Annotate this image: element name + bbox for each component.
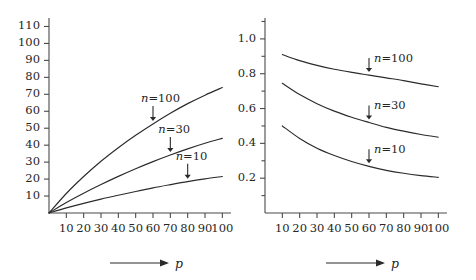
annotation-arrow-head-n=30 xyxy=(167,148,173,152)
curve-label-variable: n xyxy=(374,142,381,156)
left-y-tick-label: 110 xyxy=(18,18,40,32)
right-y-tick-label: 1.0 xyxy=(238,31,256,45)
curve-label-variable: n xyxy=(374,98,381,112)
curve-label-value: =10 xyxy=(381,142,405,156)
left-plot-svg: 102030405060708090100110 102030405060708… xyxy=(0,0,238,280)
right-x-tick-label: 70 xyxy=(379,221,394,235)
curve-label-variable: n xyxy=(374,51,381,65)
left-x-tick-label: 10 xyxy=(59,221,74,235)
curve-label-variable: n xyxy=(141,91,148,105)
right-x-tick-label: 20 xyxy=(292,221,307,235)
left-x-tick-label: 90 xyxy=(198,221,213,235)
chart-panel-right: 0.20.40.60.81.0 102030405060708090100 n=… xyxy=(238,0,476,280)
right-y-tick-label: 0.6 xyxy=(238,101,256,115)
left-y-tick-label: 70 xyxy=(25,86,40,100)
right-x-axis-ticks: 102030405060708090100 xyxy=(275,213,449,235)
right-x-tick-label: 80 xyxy=(396,221,411,235)
curve-label-n=10: n=10 xyxy=(374,142,406,156)
left-y-axis-ticks: 102030405060708090100110 xyxy=(18,18,49,202)
right-y-tick-label: 0.4 xyxy=(238,135,256,149)
left-x-tick-label: 40 xyxy=(111,221,126,235)
left-x-tick-label: 70 xyxy=(163,221,178,235)
right-x-tick-label: 30 xyxy=(310,221,325,235)
curve-label-value: =100 xyxy=(148,91,180,105)
right-x-axis-title-group: p xyxy=(326,256,399,271)
left-x-tick-label: 60 xyxy=(146,221,161,235)
left-y-tick-label: 50 xyxy=(25,120,40,134)
annotation-arrow-head-n=30 xyxy=(366,115,372,119)
chart-panel-left: 102030405060708090100110 102030405060708… xyxy=(0,0,238,280)
left-y-tick-label: 30 xyxy=(25,154,40,168)
right-y-tick-label: 0.2 xyxy=(238,170,256,184)
annotation-arrow-head-n=100 xyxy=(150,117,156,121)
left-x-tick-label: 20 xyxy=(76,221,91,235)
right-curves-group xyxy=(282,55,438,178)
left-x-axis-ticks: 102030405060708090100 xyxy=(59,213,233,235)
curve-n=30 xyxy=(282,83,438,137)
curve-label-n=10: n=10 xyxy=(176,149,208,163)
left-y-tick-label: 90 xyxy=(25,52,40,66)
annotation-arrow-head-n=10 xyxy=(185,175,191,179)
right-curve-annotations: n=100n=30n=10 xyxy=(366,51,413,163)
left-curve-annotations: n=100n=30n=10 xyxy=(141,91,207,179)
right-x-tick-label: 60 xyxy=(362,221,377,235)
right-x-tick-label: 10 xyxy=(275,221,290,235)
left-y-tick-label: 20 xyxy=(25,171,40,185)
right-y-tick-label: 0.8 xyxy=(238,66,256,80)
left-x-tick-label: 80 xyxy=(180,221,195,235)
curve-n=10 xyxy=(49,177,222,213)
curve-label-value: =100 xyxy=(381,51,413,65)
right-x-tick-label: 50 xyxy=(344,221,359,235)
right-x-tick-label: 100 xyxy=(427,221,449,235)
right-y-axis-ticks: 0.20.40.60.81.0 xyxy=(238,21,265,195)
left-x-tick-label: 100 xyxy=(211,221,233,235)
left-y-tick-label: 80 xyxy=(25,69,40,83)
right-x-tick-label: 40 xyxy=(327,221,342,235)
annotation-arrow-head-n=10 xyxy=(366,159,372,163)
left-y-tick-label: 40 xyxy=(25,137,40,151)
right-axis-title-arrow-head xyxy=(376,259,385,266)
curve-label-n=30: n=30 xyxy=(158,122,190,136)
right-x-tick-label: 90 xyxy=(414,221,429,235)
curve-label-n=100: n=100 xyxy=(374,51,413,65)
curve-label-n=100: n=100 xyxy=(141,91,180,105)
curve-label-value: =30 xyxy=(381,98,405,112)
left-x-tick-label: 50 xyxy=(128,221,143,235)
left-y-tick-label: 10 xyxy=(25,188,40,202)
annotation-arrow-head-n=100 xyxy=(366,68,372,72)
left-y-tick-label: 60 xyxy=(25,103,40,117)
right-plot-svg: 0.20.40.60.81.0 102030405060708090100 n=… xyxy=(238,0,476,280)
curve-label-variable: n xyxy=(176,149,183,163)
curve-n=100 xyxy=(282,55,438,87)
curve-label-value: =30 xyxy=(166,122,190,136)
curve-label-variable: n xyxy=(158,122,165,136)
curve-label-value: =10 xyxy=(183,149,207,163)
figure-container: 102030405060708090100110 102030405060708… xyxy=(0,0,476,280)
left-y-tick-label: 100 xyxy=(18,35,40,49)
right-x-axis-title: p xyxy=(391,256,399,271)
left-x-tick-label: 30 xyxy=(94,221,109,235)
curve-label-n=30: n=30 xyxy=(374,98,406,112)
